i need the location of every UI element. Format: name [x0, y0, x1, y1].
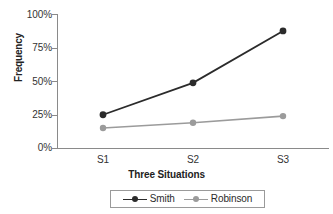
- series-smith: [100, 28, 287, 119]
- data-point-s2[interactable]: [190, 120, 196, 126]
- data-point-s2[interactable]: [190, 79, 197, 86]
- legend-label-robinson: Robinson: [211, 194, 252, 204]
- legend-marker-smith: [123, 195, 147, 204]
- x-tick-label-s3: S3: [263, 154, 303, 165]
- legend-marker-robinson: [184, 195, 208, 204]
- series-robinson: [100, 113, 286, 131]
- data-point-s1[interactable]: [100, 111, 107, 118]
- line-chart: Frequency 100% 75% 50% 25% 0% S1 S2 S3 T…: [0, 0, 333, 214]
- chart-legend: Smith Robinson: [110, 190, 265, 208]
- data-point-s1[interactable]: [100, 125, 106, 131]
- x-axis-title: Three Situations: [0, 169, 333, 180]
- legend-label-smith: Smith: [150, 194, 175, 204]
- legend-item-robinson[interactable]: Robinson: [184, 194, 252, 204]
- x-tick-label-s2: S2: [173, 154, 213, 165]
- data-point-s3[interactable]: [280, 28, 287, 35]
- series-line: [103, 31, 283, 115]
- x-tick-label-s1: S1: [83, 154, 123, 165]
- legend-item-smith[interactable]: Smith: [123, 194, 175, 204]
- plot-area: [0, 0, 333, 214]
- data-point-s3[interactable]: [280, 113, 286, 119]
